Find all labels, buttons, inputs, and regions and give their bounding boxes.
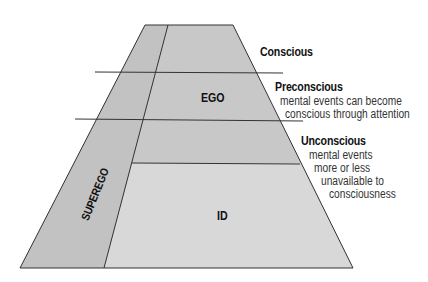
level-unconscious-desc-line: more or less <box>314 162 370 174</box>
level-preconscious-title: Preconscious <box>275 81 343 94</box>
level-unconscious-title: Unconscious <box>301 135 366 148</box>
level-unconscious-desc-line: unavailable to <box>321 175 384 187</box>
level-unconscious-desc-line: consciousness <box>329 188 396 200</box>
level-conscious-title: Conscious <box>260 46 313 59</box>
level-unconscious-desc-line: mental events <box>309 149 373 161</box>
level-preconscious-desc-line: mental events can become <box>280 95 402 107</box>
level-preconscious-desc-line: conscious through attention <box>285 108 410 120</box>
id-label: ID <box>217 210 228 223</box>
id-region <box>104 163 353 268</box>
ego-label: EGO <box>201 92 225 105</box>
